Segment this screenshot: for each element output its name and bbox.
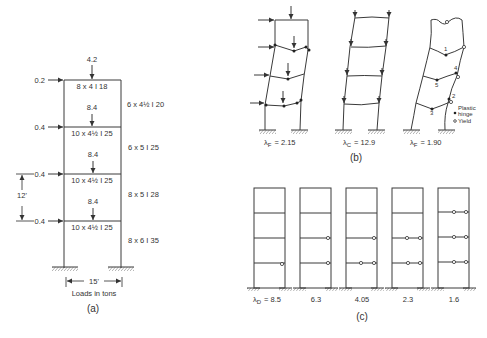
hinge-legend: Plastic hinge Yield	[454, 105, 476, 124]
beam-section-label: 8 x 4 I 18	[77, 82, 108, 91]
lambda-label-b2: λC= 12.9	[343, 138, 375, 148]
yield-icon	[359, 261, 362, 264]
fixed-support-icon	[259, 130, 276, 134]
panel-c-frame-5: 1.6	[431, 188, 476, 304]
lambda-label-c2: 6.3	[311, 295, 321, 304]
yield-icon	[326, 236, 329, 239]
beam	[351, 46, 386, 47]
fixed-support-icon	[52, 267, 78, 271]
floor-load-label: 8.4	[88, 150, 98, 159]
column-section-label: 8 x 6 I 35	[128, 236, 159, 245]
column-section-label: 6 x 5 I 25	[128, 143, 159, 152]
yield-icon	[326, 261, 329, 264]
fixed-support-icon	[291, 130, 308, 134]
deformed-beam	[275, 45, 309, 51]
hinge-number: 4	[454, 65, 458, 71]
plastic-hinge-icon	[305, 46, 308, 49]
beam	[347, 76, 382, 77]
right-column-buckled	[377, 17, 389, 130]
floor-load-label: 8.4	[88, 197, 98, 206]
plastic-hinge-icon	[287, 78, 290, 81]
yield-icon	[464, 260, 467, 263]
fixed-support-icon	[403, 130, 420, 134]
plastic-hinge-icon	[308, 49, 311, 52]
floor-load-label: 8.4	[87, 103, 97, 112]
plastic-hinge-icon	[454, 112, 457, 115]
plastic-hinge-icon	[283, 105, 286, 108]
units-note: Loads in tons	[72, 289, 117, 298]
plastic-hinge-icon	[448, 98, 451, 101]
lambda-label-b3: λF= 1.90	[410, 138, 441, 148]
beam	[355, 17, 389, 18]
lambda-label-c4: 2.3	[403, 295, 413, 304]
yield-icon	[462, 45, 465, 48]
hinge-number: 5	[435, 82, 439, 88]
yield-icon	[456, 75, 459, 78]
left-column-buckled	[343, 17, 355, 130]
beam-section-label: 10 x 4½ I 25	[71, 176, 112, 185]
hinge-number: 1	[444, 46, 448, 52]
plastic-hinge-icon	[293, 50, 296, 53]
panel-b-frame-2: λC= 12.9	[335, 10, 389, 148]
fixed-support-icon	[335, 130, 352, 134]
column-section-label: 8 x 5 I 28	[128, 190, 159, 199]
roof-load-label: 4.2	[87, 55, 97, 64]
beam-section-label: 10 x 4½ I 25	[71, 223, 112, 232]
left-column-deformed	[411, 20, 431, 130]
panel-c-caption: (c)	[356, 311, 368, 322]
lateral-load-label: 0.2	[35, 76, 45, 85]
story-height-dimension: 12'	[16, 174, 34, 221]
bay-width-dimension: 15'	[66, 277, 122, 287]
panel-b-caption: (b)	[350, 152, 362, 163]
plastic-hinge-icon	[455, 72, 458, 75]
yield-icon	[464, 210, 467, 213]
panel-c-frame-4: 2.3	[385, 188, 430, 304]
plastic-hinge-icon	[274, 44, 277, 47]
panel-c-frame-1: λD= 8.5	[247, 188, 292, 305]
lambda-label-c3: 4.05	[355, 295, 370, 304]
yield-icon	[454, 120, 457, 123]
panel-b-frame-1: λF= 2.15	[250, 6, 311, 148]
beam	[344, 103, 379, 105]
yield-icon	[449, 100, 452, 103]
lambda-label-b1: λF= 2.15	[264, 138, 295, 148]
structural-frame-diagram: 4.2 8.4 8.4 8.4 0.2 0.4 0.4 0.4 8 x 4 I …	[0, 0, 487, 338]
yield-icon	[418, 261, 421, 264]
yield-icon	[452, 210, 455, 213]
svg-text:12': 12'	[17, 191, 27, 200]
panel-b-frame-3: 1 2 3 4 5 Plastic hinge Yield λF= 1.90	[403, 18, 476, 148]
panel-a-frame: 4.2 8.4 8.4 8.4 0.2 0.4 0.4 0.4 8 x 4 I …	[16, 55, 164, 314]
fixed-support-icon	[368, 130, 385, 134]
panel-a-caption: (a)	[87, 303, 99, 314]
yield-icon	[452, 235, 455, 238]
panel-c-frame-2: 6.3	[293, 188, 338, 304]
svg-text:15': 15'	[89, 277, 99, 286]
lateral-load-label: 0.4	[35, 217, 45, 226]
yield-icon	[464, 235, 467, 238]
svg-text:hinge: hinge	[458, 111, 473, 117]
fixed-support-icon	[108, 267, 134, 271]
yield-icon	[418, 236, 421, 239]
beam-section-label: 10 x 4½ I 25	[71, 129, 112, 138]
lambda-label-c1: λD= 8.5	[253, 295, 281, 305]
yield-icon	[405, 236, 408, 239]
plastic-hinge-icon	[445, 54, 448, 57]
beam-deformed	[423, 73, 457, 80]
plastic-hinge-icon	[296, 102, 299, 105]
panel-c-frame-3: 4.05	[339, 188, 384, 304]
yield-icon	[452, 260, 455, 263]
yield-icon	[406, 261, 409, 264]
fixed-support-icon	[438, 130, 455, 134]
yield-icon	[445, 20, 448, 23]
lateral-load-label: 0.4	[35, 170, 45, 179]
plastic-hinge-icon	[300, 99, 303, 102]
yield-icon	[372, 236, 375, 239]
yield-icon	[372, 261, 375, 264]
plastic-hinge-icon	[265, 104, 268, 107]
lambda-label-c5: 1.6	[449, 295, 459, 304]
lateral-load-label: 0.4	[35, 123, 45, 132]
hinge-number: 3	[430, 110, 434, 116]
column-section-label: 6 x 4½ I 20	[127, 100, 164, 109]
hinge-number: 2	[452, 93, 456, 99]
yield-icon	[280, 262, 283, 265]
